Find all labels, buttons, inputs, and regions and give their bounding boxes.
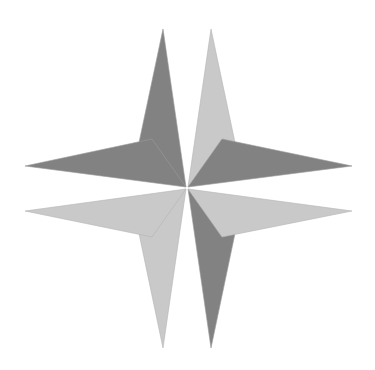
background-rect	[0, 0, 375, 370]
figure-canvas: Four-Pointed Compass Rose A four-pointed…	[0, 0, 375, 370]
compass-rose-graphic	[0, 0, 375, 370]
